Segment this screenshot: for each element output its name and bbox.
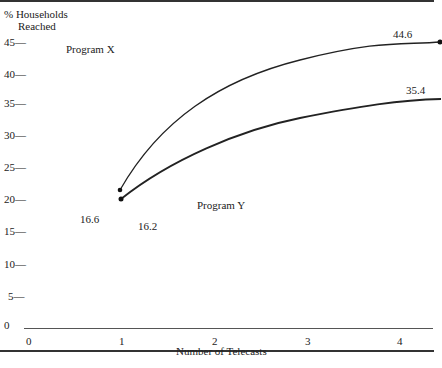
plot-area [0,0,442,368]
program-x-label: Program X [66,43,115,55]
program-x-end-point [438,40,442,45]
program-y-curve [121,99,441,199]
program-y-label: Program Y [197,199,245,211]
program-y-start-value: 16.2 [138,220,157,232]
program-x-start-value: 16.6 [80,213,99,225]
program-x-end-value: 44.6 [393,28,412,40]
program-x-start-point [118,188,123,193]
program-y-end-value: 35.4 [406,84,425,96]
program-y-start-point [119,197,124,202]
